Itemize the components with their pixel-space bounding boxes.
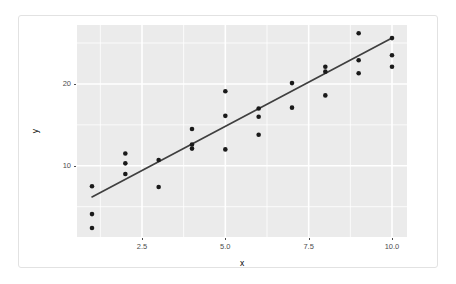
data-point [190, 142, 195, 147]
fit-line [92, 38, 392, 197]
y-axis-title-text: y [30, 129, 40, 133]
data-point [190, 146, 195, 151]
data-point [90, 184, 95, 189]
y-tick-mark [74, 84, 76, 85]
data-point [123, 172, 128, 177]
data-point [290, 81, 295, 86]
x-axis-title-text: x [240, 258, 244, 268]
y-tick-label: 10 [47, 162, 71, 170]
data-point [323, 69, 328, 74]
data-point [190, 127, 195, 132]
x-tick-label: 7.5 [303, 243, 313, 251]
data-point [390, 53, 395, 58]
data-point [123, 161, 128, 166]
x-tick-mark [142, 238, 143, 240]
data-point [356, 31, 361, 36]
data-point [290, 105, 295, 110]
data-point [123, 151, 128, 156]
chart-card: 1020 2.55.07.510.0 x y [18, 15, 438, 268]
data-point [256, 106, 261, 111]
x-tick-label: 5.0 [220, 243, 230, 251]
data-point [223, 147, 228, 152]
data-point [223, 89, 228, 94]
x-tick-label: 10.0 [385, 243, 400, 251]
scatter-plot-svg [77, 25, 407, 237]
x-axis-title: x [77, 258, 407, 268]
y-tick-mark [74, 166, 76, 167]
plot-panel [77, 25, 407, 237]
data-point [323, 64, 328, 69]
x-tick-mark [309, 238, 310, 240]
y-axis-title: y [29, 25, 41, 237]
data-point [356, 58, 361, 63]
data-point [90, 226, 95, 231]
x-tick-label: 2.5 [137, 243, 147, 251]
x-tick-mark [225, 238, 226, 240]
y-tick-label: 20 [47, 80, 71, 88]
data-point [156, 185, 161, 190]
data-point [390, 64, 395, 69]
data-point [223, 114, 228, 119]
data-point [390, 36, 395, 41]
data-point [90, 212, 95, 217]
data-point [356, 71, 361, 76]
x-tick-mark [392, 238, 393, 240]
data-point [256, 114, 261, 119]
data-point [156, 158, 161, 163]
data-point [256, 132, 261, 137]
data-point [323, 93, 328, 98]
